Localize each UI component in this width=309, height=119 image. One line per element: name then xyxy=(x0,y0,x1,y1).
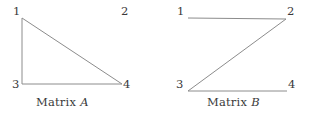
node-label-a-2: 2 xyxy=(121,6,128,18)
matrix-b-panel: 1 2 3 4 MatrixB xyxy=(155,0,309,119)
edge-2-3 xyxy=(188,19,286,91)
matrix-b-caption-word: Matrix xyxy=(207,95,247,109)
matrix-graphs-figure: 1 2 3 4 MatrixA 1 2 3 4 MatrixB xyxy=(0,0,309,119)
matrix-b-caption: MatrixB xyxy=(207,96,260,108)
node-label-b-2: 2 xyxy=(287,6,294,18)
matrix-b-caption-name: B xyxy=(251,95,259,109)
edge-1-4 xyxy=(22,18,122,84)
edge-1-2 xyxy=(188,18,286,19)
node-label-a-3: 3 xyxy=(12,79,19,91)
node-label-b-1: 1 xyxy=(177,6,184,18)
matrix-a-caption-name: A xyxy=(80,95,88,109)
matrix-a-caption: MatrixA xyxy=(36,96,88,108)
node-label-b-4: 4 xyxy=(288,79,295,91)
matrix-a-panel: 1 2 3 4 MatrixA xyxy=(0,0,155,119)
node-label-a-1: 1 xyxy=(13,6,20,18)
node-label-b-3: 3 xyxy=(176,79,183,91)
matrix-a-caption-word: Matrix xyxy=(36,95,76,109)
node-label-a-4: 4 xyxy=(123,79,130,91)
